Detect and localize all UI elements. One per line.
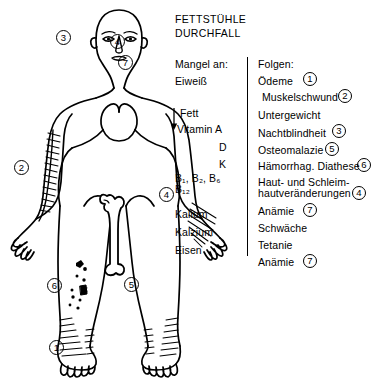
right-marker-3: 3 <box>332 124 346 138</box>
body-marker-4-hand: 4 <box>159 187 174 202</box>
right-item-muskelschwund: Muskelschwund <box>262 91 338 103</box>
left-item-kalzium: Kalzium <box>175 226 213 238</box>
body-marker-3: 3 <box>56 30 71 45</box>
body-marker-2-arm: 2 <box>14 160 29 175</box>
neck-left <box>96 88 114 98</box>
right-item-haemorrhag-diathese: Hämorrhag. Diathese <box>258 160 360 172</box>
left-hand <box>11 238 34 260</box>
diagram-page: 3 4 7 2 4 6 5 1 FETTSTÜHLE DURCHFALL Man… <box>0 0 383 388</box>
right-item-schwaeche: Schwäche <box>258 222 307 234</box>
right-hand <box>204 238 227 260</box>
right-marker-5: 5 <box>325 142 339 156</box>
right-leg-inner <box>126 206 148 346</box>
body-marker-6-shin: 6 <box>47 278 62 293</box>
left-brow <box>102 32 115 34</box>
right-item-oedeme: Ödeme <box>258 75 293 87</box>
left-item-vitamin-k: K <box>219 158 226 170</box>
right-item-haut-schleimhaut-line2: hautveränderungen <box>258 188 351 199</box>
left-leg-outer <box>58 206 60 346</box>
right-breast <box>119 104 137 130</box>
right-pupil <box>129 37 132 40</box>
title-line-2: DURCHFALL <box>175 27 241 39</box>
right-item-tetanie: Tetanie <box>258 239 293 251</box>
column-divider <box>247 57 248 256</box>
femur-bone <box>100 195 124 276</box>
right-marker-6: 6 <box>357 158 371 172</box>
right-brow <box>124 32 137 34</box>
title-line-1: FETTSTÜHLE <box>175 13 246 25</box>
body-marker-5-leg: 5 <box>124 277 139 292</box>
left-item-eiweiss: Eiweiß <box>175 75 207 87</box>
right-item-untergewicht: Untergewicht <box>258 109 320 121</box>
right-marker-7-second: 7 <box>303 254 317 268</box>
right-ankle-hatching <box>144 318 179 356</box>
right-underbust <box>135 130 166 148</box>
body-marker-1-ankle: 1 <box>49 340 64 355</box>
left-item-vitamin-d: D <box>219 141 227 153</box>
left-column-header: Mangel an: <box>175 58 228 70</box>
right-marker-2: 2 <box>338 89 352 103</box>
right-item-anaemie-first: Anämie <box>258 205 294 217</box>
crotch-right <box>126 196 154 206</box>
left-underbust <box>72 130 103 148</box>
right-column-header: Folgen: <box>258 58 294 70</box>
right-item-osteomalazie: Osteomalazie <box>258 144 323 156</box>
left-item-eisen: Eisen <box>175 244 202 256</box>
body-marker-7-neck: 7 <box>118 55 133 70</box>
right-marker-4: 4 <box>352 186 366 200</box>
left-arm-hatching <box>39 130 60 221</box>
head-outline <box>96 10 142 88</box>
neck-right <box>124 88 142 98</box>
left-item-kalium: Kalium <box>175 208 208 220</box>
down-arrow-icon <box>169 107 179 131</box>
left-body-contour <box>18 98 96 238</box>
right-item-anaemie-second: Anämie <box>258 256 294 268</box>
left-item-vitamin-a: Vitamin A <box>177 123 222 135</box>
left-item-b12: B₁₂ <box>175 183 190 195</box>
left-leg-inner <box>90 206 112 346</box>
right-marker-7-first: 7 <box>303 203 317 217</box>
right-item-nachtblindheit: Nachtblindheit <box>258 127 326 139</box>
body-marker-4-face: 4 <box>110 34 125 49</box>
right-marker-1: 1 <box>303 72 317 86</box>
left-item-fett: Fett <box>180 107 199 119</box>
breast-fold <box>103 130 135 141</box>
left-breast <box>101 104 119 130</box>
